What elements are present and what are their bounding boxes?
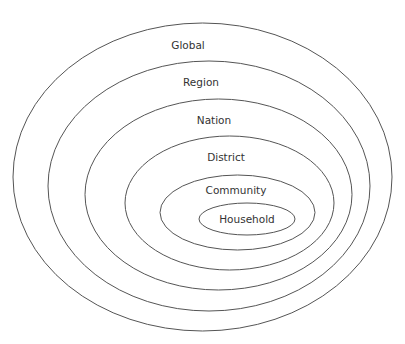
ellipse-global [13,23,392,331]
label-district: District [207,151,245,163]
label-household: Household [219,213,275,225]
nested-levels-diagram: GlobalRegionNationDistrictCommunityHouse… [0,0,405,344]
label-nation: Nation [197,114,231,126]
label-global: Global [171,39,205,51]
diagram-canvas: GlobalRegionNationDistrictCommunityHouse… [0,0,405,344]
label-community: Community [206,184,267,196]
label-region: Region [183,76,219,88]
